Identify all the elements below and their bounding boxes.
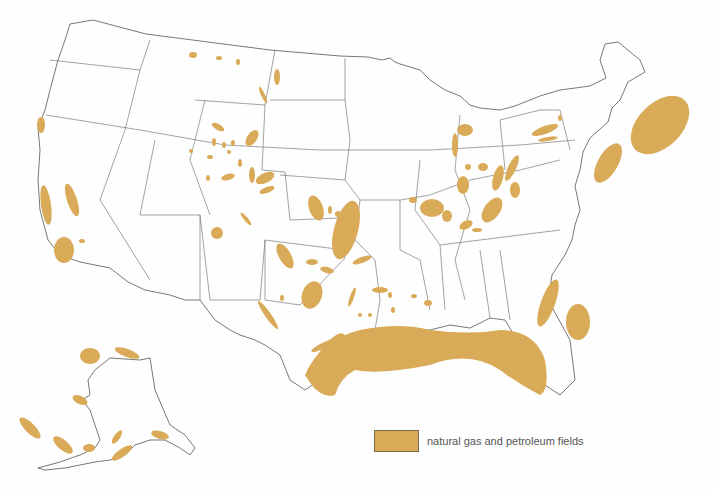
legend: natural gas and petroleum fields	[374, 430, 584, 452]
legend-swatch-petroleum	[374, 430, 419, 452]
legend-label: natural gas and petroleum fields	[427, 435, 584, 447]
petroleum-fields	[17, 52, 701, 463]
us-map	[0, 0, 714, 490]
